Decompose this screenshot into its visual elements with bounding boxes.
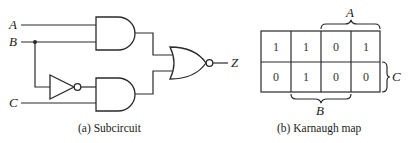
wire-b-to-inverter <box>35 42 50 87</box>
brace-label-a: A <box>345 5 354 20</box>
diagram-canvas: A B C Z (a) Subcircuit 1 <box>0 0 409 143</box>
subcircuit: A B C Z (a) Subcircuit <box>8 17 239 135</box>
input-label-a: A <box>8 17 17 32</box>
brace-label-c: C <box>392 69 401 84</box>
kmap-cell: 1 <box>303 40 309 54</box>
brace-label-b: B <box>316 103 324 118</box>
and-gate-2-icon <box>96 78 135 111</box>
input-label-c: C <box>9 95 18 110</box>
input-label-b: B <box>9 34 17 49</box>
kmap-cell: 0 <box>333 40 339 54</box>
kmap-cell: 0 <box>363 70 369 84</box>
nor-gate-icon <box>170 47 206 79</box>
caption-subcircuit: (a) Subcircuit <box>78 122 142 135</box>
wire-and2-out <box>135 71 173 94</box>
karnaugh-map: 1 1 0 1 0 1 0 0 A B C (b) Karnaugh map <box>261 5 401 135</box>
kmap-cell: 1 <box>303 70 309 84</box>
output-label-z: Z <box>231 55 239 70</box>
wire-and1-out <box>135 33 173 55</box>
caption-kmap: (b) Karnaugh map <box>277 122 362 135</box>
kmap-cell: 0 <box>333 70 339 84</box>
inverter-bubble-icon <box>74 84 81 91</box>
and-gate-1-icon <box>96 17 135 50</box>
brace-b-icon <box>291 94 351 103</box>
kmap-cell: 1 <box>363 40 369 54</box>
kmap-cell: 0 <box>273 70 279 84</box>
not-gate-icon <box>50 75 74 99</box>
brace-a-icon <box>321 20 380 29</box>
kmap-cell: 1 <box>273 40 279 54</box>
nor-bubble-icon <box>206 60 213 67</box>
brace-c-icon <box>382 62 390 92</box>
